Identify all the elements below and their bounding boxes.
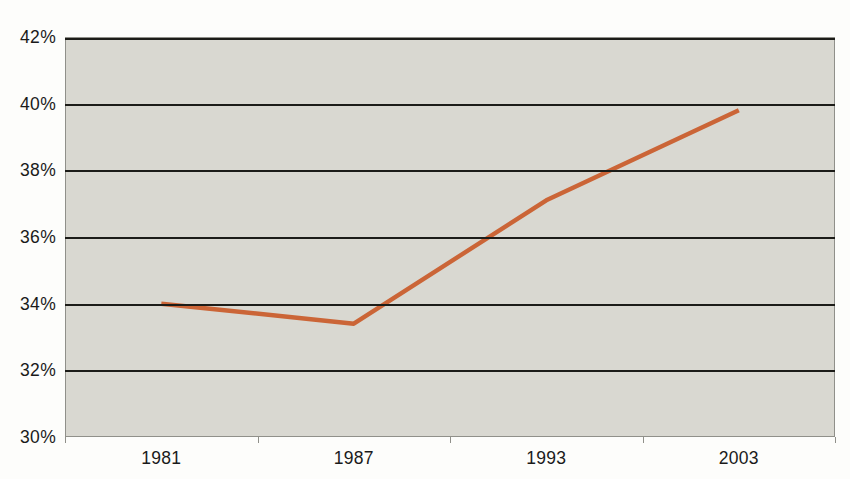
x-tick-label: 1987: [309, 447, 399, 469]
y-tick-label: 38%: [0, 159, 56, 181]
y-tick-label: 42%: [0, 26, 56, 48]
y-tick-label: 30%: [0, 426, 56, 448]
data-line: [161, 110, 739, 323]
y-tick-label: 36%: [0, 226, 56, 248]
gridline: [65, 304, 835, 306]
gridline: [65, 38, 835, 40]
gridline: [65, 237, 835, 239]
x-axis-tick-mark: [258, 437, 259, 443]
y-tick-label: 34%: [0, 293, 56, 315]
gridline: [65, 170, 835, 172]
x-axis-tick-mark: [450, 437, 451, 443]
x-axis-tick-mark: [65, 437, 66, 443]
y-tick-label: 32%: [0, 359, 56, 381]
gridline: [65, 104, 835, 106]
x-tick-label: 2003: [694, 447, 784, 469]
plot-area: [65, 37, 835, 437]
gridline: [65, 370, 835, 372]
line-chart: 42%40%38%36%34%32%30% 1981198719932003: [0, 0, 850, 479]
x-tick-label: 1981: [116, 447, 206, 469]
x-tick-label: 1993: [501, 447, 591, 469]
x-axis-tick-mark: [643, 437, 644, 443]
x-axis-tick-mark: [835, 437, 836, 443]
y-tick-label: 40%: [0, 93, 56, 115]
